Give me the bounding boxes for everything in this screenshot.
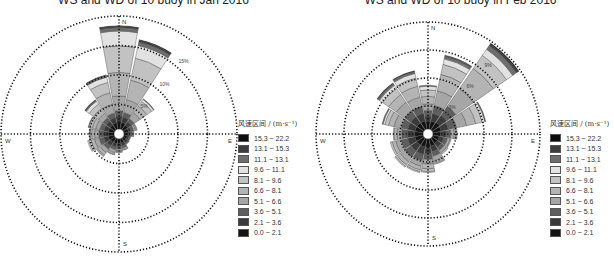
legend-swatch bbox=[550, 197, 561, 205]
legend-swatch bbox=[550, 145, 561, 153]
petal-segment bbox=[95, 130, 99, 139]
legend-item: 0.0 ~ 2.1 bbox=[238, 228, 297, 239]
legend-swatch bbox=[550, 155, 561, 163]
legend-feb: 风速区间 / (m·s⁻¹) 15.3 ~ 22.213.1 ~ 15.311.… bbox=[550, 118, 609, 238]
legend-swatch bbox=[238, 197, 249, 205]
compass-label-N: N bbox=[431, 25, 435, 31]
legend-item: 2.1 ~ 3.6 bbox=[550, 217, 609, 228]
legend-item: 3.6 ~ 5.1 bbox=[238, 207, 297, 218]
legend-title: 风速区间 / (m·s⁻¹) bbox=[550, 118, 609, 128]
legend-swatch bbox=[238, 208, 249, 216]
ring-label: 3% bbox=[449, 104, 457, 110]
compass-label-E: E bbox=[531, 138, 535, 144]
legend-items: 15.3 ~ 22.213.1 ~ 15.311.1 ~ 13.19.6 ~ 1… bbox=[238, 133, 297, 238]
compass-label-W: W bbox=[5, 138, 11, 144]
legend-swatch bbox=[238, 176, 249, 184]
legend-item: 15.3 ~ 22.2 bbox=[238, 133, 297, 144]
legend-item: 13.1 ~ 15.3 bbox=[550, 144, 609, 155]
legend-label: 11.1 ~ 13.1 bbox=[254, 156, 289, 163]
legend-item: 13.1 ~ 15.3 bbox=[238, 144, 297, 155]
legend-label: 9.6 ~ 11.1 bbox=[566, 166, 597, 173]
legend-swatch bbox=[238, 218, 249, 226]
legend-item: 15.3 ~ 22.2 bbox=[550, 133, 609, 144]
compass-label-W: W bbox=[320, 138, 326, 144]
legend-label: 0.0 ~ 2.1 bbox=[254, 229, 281, 236]
legend-label: 3.6 ~ 5.1 bbox=[566, 208, 593, 215]
windrose-chart-feb: 3%6%9%NESW bbox=[307, 0, 547, 262]
legend-swatch bbox=[238, 166, 249, 174]
center-hole bbox=[423, 129, 433, 139]
legend-label: 15.3 ~ 22.2 bbox=[254, 135, 289, 142]
legend-swatch bbox=[238, 145, 249, 153]
legend-item: 9.6 ~ 11.1 bbox=[550, 165, 609, 176]
legend-item: 8.1 ~ 9.6 bbox=[238, 175, 297, 186]
ring-label: 6% bbox=[467, 83, 475, 89]
legend-item: 6.6 ~ 8.1 bbox=[238, 186, 297, 197]
legend-item: 8.1 ~ 9.6 bbox=[550, 175, 609, 186]
ring-label: 10% bbox=[159, 81, 170, 87]
legend-swatch bbox=[550, 229, 561, 237]
legend-label: 6.6 ~ 8.1 bbox=[254, 187, 281, 194]
legend-swatch bbox=[238, 187, 249, 195]
legend-item: 11.1 ~ 13.1 bbox=[238, 154, 297, 165]
legend-label: 2.1 ~ 3.6 bbox=[254, 219, 281, 226]
petal-segment bbox=[116, 152, 123, 153]
ring-label: 5% bbox=[141, 103, 149, 109]
compass-label-E: E bbox=[228, 138, 232, 144]
legend-swatch bbox=[550, 208, 561, 216]
legend-title: 风速区间 / (m·s⁻¹) bbox=[238, 118, 297, 128]
legend-items: 15.3 ~ 22.213.1 ~ 15.311.1 ~ 13.19.6 ~ 1… bbox=[550, 133, 609, 238]
legend-swatch bbox=[550, 166, 561, 174]
legend-label: 11.1 ~ 13.1 bbox=[566, 156, 601, 163]
legend-label: 13.1 ~ 15.3 bbox=[566, 145, 601, 152]
compass-label-N: N bbox=[122, 19, 126, 25]
legend-label: 5.1 ~ 6.6 bbox=[254, 198, 281, 205]
legend-jan: 风速区间 / (m·s⁻¹) 15.3 ~ 22.213.1 ~ 15.311.… bbox=[238, 118, 297, 238]
legend-swatch bbox=[238, 229, 249, 237]
legend-label: 3.6 ~ 5.1 bbox=[254, 208, 281, 215]
legend-label: 8.1 ~ 9.6 bbox=[566, 177, 593, 184]
legend-swatch bbox=[550, 134, 561, 142]
legend-swatch bbox=[238, 155, 249, 163]
legend-label: 8.1 ~ 9.6 bbox=[254, 177, 281, 184]
legend-label: 13.1 ~ 15.3 bbox=[254, 145, 289, 152]
windrose-panel-jan: WS and WD of 10 buoy in Jan 2016 5%10%15… bbox=[0, 0, 307, 262]
legend-swatch bbox=[550, 176, 561, 184]
windrose-chart-jan: 5%10%15%NESW bbox=[0, 0, 240, 262]
legend-label: 9.6 ~ 11.1 bbox=[254, 166, 285, 173]
petal-segment bbox=[407, 130, 415, 138]
compass-label-S: S bbox=[432, 235, 436, 241]
legend-item: 9.6 ~ 11.1 bbox=[238, 165, 297, 176]
legend-item: 11.1 ~ 13.1 bbox=[550, 154, 609, 165]
legend-label: 15.3 ~ 22.2 bbox=[566, 135, 601, 142]
legend-label: 6.6 ~ 8.1 bbox=[566, 187, 593, 194]
petal-segment bbox=[423, 104, 434, 111]
compass-label-S: S bbox=[123, 241, 127, 247]
ring-label: 9% bbox=[485, 62, 493, 68]
petal-segment bbox=[103, 46, 135, 74]
legend-swatch bbox=[550, 218, 561, 226]
legend-item: 2.1 ~ 3.6 bbox=[238, 217, 297, 228]
windrose-panel-feb: WS and WD of 10 buoy in Feb 2016 3%6%9%N… bbox=[307, 0, 614, 262]
legend-item: 6.6 ~ 8.1 bbox=[550, 186, 609, 197]
legend-label: 2.1 ~ 3.6 bbox=[566, 219, 593, 226]
legend-swatch bbox=[238, 134, 249, 142]
legend-swatch bbox=[550, 187, 561, 195]
legend-label: 0.0 ~ 2.1 bbox=[566, 229, 593, 236]
legend-item: 3.6 ~ 5.1 bbox=[550, 207, 609, 218]
ring-label: 15% bbox=[178, 58, 189, 64]
center-hole bbox=[114, 129, 124, 139]
legend-item: 5.1 ~ 6.6 bbox=[238, 196, 297, 207]
legend-item: 5.1 ~ 6.6 bbox=[550, 196, 609, 207]
legend-item: 0.0 ~ 2.1 bbox=[550, 228, 609, 239]
legend-label: 5.1 ~ 6.6 bbox=[566, 198, 593, 205]
